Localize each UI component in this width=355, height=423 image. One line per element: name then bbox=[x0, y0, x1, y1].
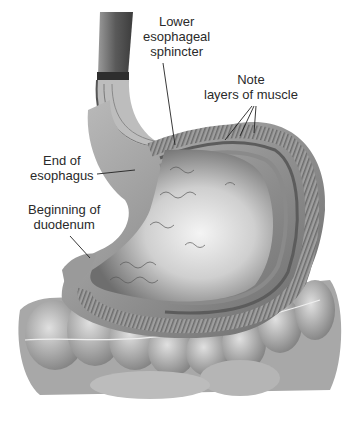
label-line: layers of muscle bbox=[204, 87, 298, 102]
label-line: esophagus bbox=[30, 168, 94, 183]
label-line: Lower bbox=[143, 14, 210, 29]
label-line: duodenum bbox=[28, 217, 100, 232]
label-muscle-layers: Note layers of muscle bbox=[204, 72, 298, 102]
label-end-of-esophagus: End of esophagus bbox=[30, 153, 94, 183]
stomach bbox=[62, 100, 325, 338]
label-line: End of bbox=[30, 153, 94, 168]
label-line: esophageal bbox=[143, 29, 210, 44]
leader-duodenum bbox=[70, 236, 90, 258]
stomach-diagram: Lower esophageal sphincter Note layers o… bbox=[0, 0, 355, 423]
leader-sphincter bbox=[163, 63, 175, 145]
label-lower-esophageal-sphincter: Lower esophageal sphincter bbox=[143, 14, 210, 59]
label-line: sphincter bbox=[143, 44, 210, 59]
label-beginning-of-duodenum: Beginning of duodenum bbox=[28, 202, 100, 232]
label-line: Beginning of bbox=[28, 202, 100, 217]
label-line: Note bbox=[204, 72, 298, 87]
